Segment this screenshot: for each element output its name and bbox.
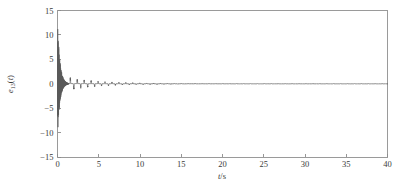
chart-figure: 0510152025303540 151050−5−10−15 t/s e13(… [0,0,402,188]
x-tick-label: 15 [177,159,186,169]
y-axis-title: e13(t) [5,75,16,93]
y-axis-tick-labels: 151050−5−10−15 [40,6,53,163]
y-tick-label: −15 [40,152,53,162]
plot-svg: 0510152025303540 151050−5−10−15 t/s e13(… [0,0,402,188]
x-axis-tick-labels: 0510152025303540 [55,159,391,169]
y-tick-label: −5 [44,103,53,113]
x-tick-label: 5 [97,159,101,169]
data-series-e13 [58,29,388,127]
y-tick-label: 0 [49,79,53,89]
x-tick-label: 20 [218,159,227,169]
x-tick-label: 40 [383,159,392,169]
x-tick-label: 25 [260,159,269,169]
y-tick-label: 10 [45,30,54,40]
x-axis-title: t/s [218,171,226,181]
x-tick-label: 0 [55,159,59,169]
y-tick-label: 5 [49,54,53,64]
x-tick-label: 10 [136,159,145,169]
y-tick-label: 15 [45,6,54,16]
x-tick-label: 30 [301,159,310,169]
x-tick-label: 35 [342,159,351,169]
y-tick-label: −10 [40,128,53,138]
